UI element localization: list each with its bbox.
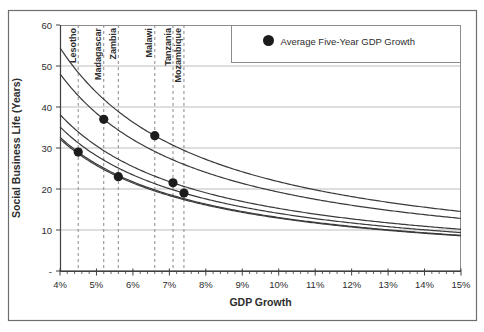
dot-madagascar bbox=[99, 115, 108, 124]
country-label-zambia: Zambia bbox=[108, 27, 118, 60]
legend-label: Average Five-Year GDP Growth bbox=[281, 36, 415, 47]
x-tick-label-10: 10% bbox=[269, 279, 289, 290]
y-tick-label-30: 30 bbox=[41, 143, 52, 154]
x-tick-label-9: 9% bbox=[235, 279, 249, 290]
x-tick-label-8: 8% bbox=[199, 279, 213, 290]
dot-mozambique bbox=[179, 189, 188, 198]
dot-tanzania bbox=[168, 178, 177, 187]
x-tick-label-13: 13% bbox=[379, 279, 399, 290]
figure: LesothoMadagascarZambiaMalawiTanzaniaMoz… bbox=[0, 0, 484, 332]
y-tick-label-40: 40 bbox=[41, 102, 52, 113]
x-tick-label-5: 5% bbox=[90, 279, 104, 290]
dot-zambia bbox=[114, 172, 123, 181]
y-tick-label-0: - bbox=[49, 266, 52, 277]
y-axis-title: Social Business Life (Years) bbox=[10, 78, 22, 218]
y-tick-label-50: 50 bbox=[41, 61, 52, 72]
x-tick-label-12: 12% bbox=[342, 279, 362, 290]
country-label-malawi: Malawi bbox=[144, 28, 154, 58]
x-tick-label-6: 6% bbox=[126, 279, 140, 290]
x-tick-label-11: 11% bbox=[306, 279, 325, 290]
x-tick-label-7: 7% bbox=[162, 279, 176, 290]
y-tick-label-60: 60 bbox=[41, 20, 52, 31]
y-tick-label-10: 10 bbox=[41, 225, 52, 236]
country-label-lesotho: Lesotho bbox=[68, 27, 78, 63]
x-axis-title: GDP Growth bbox=[229, 296, 291, 308]
country-label-madagascar: Madagascar bbox=[93, 28, 103, 81]
chart-canvas: LesothoMadagascarZambiaMalawiTanzaniaMoz… bbox=[0, 0, 484, 332]
legend-marker-icon bbox=[263, 35, 274, 46]
y-tick-label-20: 20 bbox=[41, 184, 52, 195]
x-tick-label-15: 15% bbox=[451, 279, 471, 290]
x-tick-label-14: 14% bbox=[415, 279, 435, 290]
country-label-tanzania: Tanzania bbox=[163, 27, 173, 66]
country-label-mozambique: Mozambique bbox=[173, 28, 183, 83]
dot-malawi bbox=[150, 131, 159, 140]
dot-lesotho bbox=[74, 148, 83, 157]
x-tick-label-4: 4% bbox=[53, 279, 67, 290]
